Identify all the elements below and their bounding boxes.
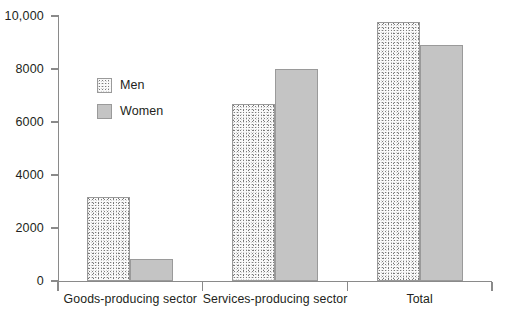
y-axis-tick (51, 15, 59, 16)
legend-item-women: Women (97, 100, 163, 122)
y-axis-tick (51, 68, 59, 69)
y-axis-line (58, 16, 59, 282)
x-axis-tick (347, 282, 348, 291)
gray-square-swatch (97, 104, 112, 119)
y-axis-tick-label: 10,000 (5, 9, 44, 23)
bar-women-1 (130, 259, 173, 281)
legend-item-men: Men (97, 74, 163, 96)
legend: Men Women (97, 74, 163, 126)
x-axis-line (58, 281, 492, 282)
y-axis-tick-label: 4000 (15, 168, 44, 182)
x-axis-category-label: Total (406, 292, 432, 306)
y-axis-tick (51, 121, 59, 122)
bar-men-2 (232, 104, 275, 281)
y-axis-tick (51, 174, 59, 175)
x-axis-category-label: Services-producing sector (203, 292, 348, 306)
y-axis-tick-label: 2000 (15, 221, 44, 235)
y-axis-tick-label: 0 (37, 274, 44, 288)
bar-women-3 (420, 45, 463, 281)
x-axis-tick (202, 282, 203, 291)
bar-men-3 (377, 22, 420, 281)
y-axis-tick (51, 227, 59, 228)
x-axis-tick (491, 282, 492, 291)
legend-label-men: Men (120, 78, 145, 92)
bar-men-1 (87, 197, 130, 281)
x-axis-category-label: Goods-producing sector (64, 292, 197, 306)
x-axis-tick (57, 282, 58, 291)
y-axis-tick-label: 8000 (15, 62, 44, 76)
y-axis-tick-label: 6000 (15, 115, 44, 129)
bar-chart: 0200040006000800010,000 Goods-producing … (0, 0, 510, 318)
bar-women-2 (275, 69, 318, 281)
legend-label-women: Women (120, 104, 163, 118)
stippled-square-swatch (97, 78, 112, 93)
